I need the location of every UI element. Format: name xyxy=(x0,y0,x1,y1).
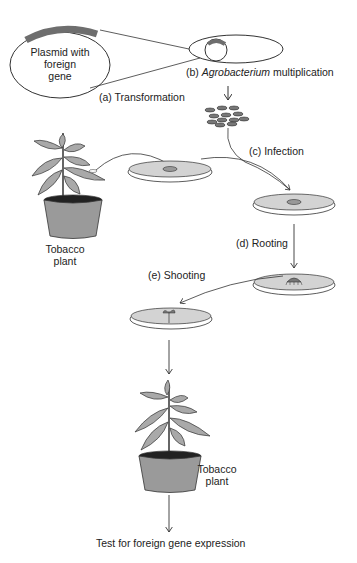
step-e-label: (e) Shooting xyxy=(148,269,205,281)
bacteria-colony-icon xyxy=(205,106,249,127)
step-c-prefix: (c) xyxy=(249,145,261,157)
step-b-text: multiplication xyxy=(273,66,334,78)
tobacco-plant-top-line1: Tobacco xyxy=(42,243,88,255)
step-e-prefix: (e) xyxy=(148,269,161,281)
petri-dish-4-icon xyxy=(130,308,212,329)
step-e-text: Shooting xyxy=(164,269,205,281)
plasmid-label-line1: Plasmid with xyxy=(30,46,90,58)
step-d-label: (d) Rooting xyxy=(236,237,288,249)
step-b-prefix: (b) xyxy=(186,66,199,78)
tobacco-plant-bottom-label: Tobacco plant xyxy=(194,463,240,487)
petri-dish-2-icon xyxy=(253,194,335,215)
step-c-text: Infection xyxy=(264,145,304,157)
tobacco-plant-bottom-line2: plant xyxy=(194,475,240,487)
agrobacterium-cell-icon xyxy=(189,35,283,63)
final-test-text: Test for foreign gene expression xyxy=(96,537,245,549)
step-b-label: (b) Agrobacterium multiplication xyxy=(186,66,334,78)
plasmid-label: Plasmid with foreign gene xyxy=(30,46,90,82)
tobacco-plant-top-icon xyxy=(32,133,105,239)
step-d-prefix: (d) xyxy=(236,237,249,249)
final-test-label: Test for foreign gene expression xyxy=(96,537,245,549)
step-d-text: Rooting xyxy=(252,237,288,249)
step-a-label: (a) Transformation xyxy=(99,91,185,103)
step-b-italic: Agrobacterium xyxy=(202,66,270,78)
petri-dish-1-icon xyxy=(128,161,212,182)
step-a-prefix: (a) xyxy=(99,91,112,103)
tobacco-plant-bottom-line1: Tobacco xyxy=(194,463,240,475)
tobacco-plant-top-line2: plant xyxy=(42,255,88,267)
plasmid-label-line2: foreign xyxy=(30,58,90,70)
step-a-text: Transformation xyxy=(115,91,185,103)
zoom-line-top xyxy=(100,30,203,52)
agrobacterium-transformation-diagram xyxy=(0,0,357,563)
tobacco-plant-top-label: Tobacco plant xyxy=(42,243,88,267)
plasmid-label-line3: gene xyxy=(30,70,90,82)
step-c-label: (c) Infection xyxy=(249,145,304,157)
petri-dish-3-icon xyxy=(253,274,335,295)
